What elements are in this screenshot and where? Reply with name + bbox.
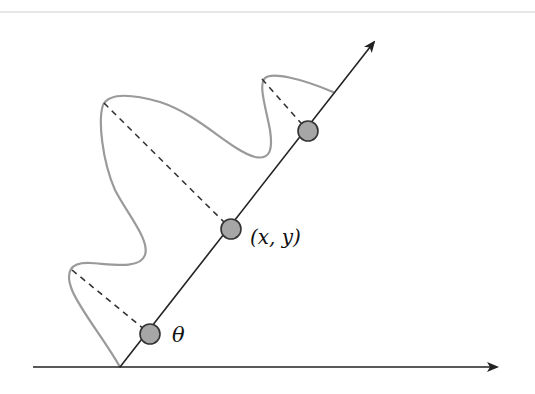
xy-label: (x, y) — [250, 225, 301, 249]
projection-line-middle — [104, 103, 231, 229]
rotated-axis — [120, 42, 374, 367]
theta-label: θ — [172, 323, 185, 347]
projection-line-lower — [72, 270, 150, 334]
profile-curve — [69, 76, 333, 367]
upper-point — [298, 121, 318, 141]
theta-point — [140, 324, 160, 344]
diagram-canvas: θ (x, y) — [0, 0, 535, 394]
xy-point — [221, 219, 241, 239]
